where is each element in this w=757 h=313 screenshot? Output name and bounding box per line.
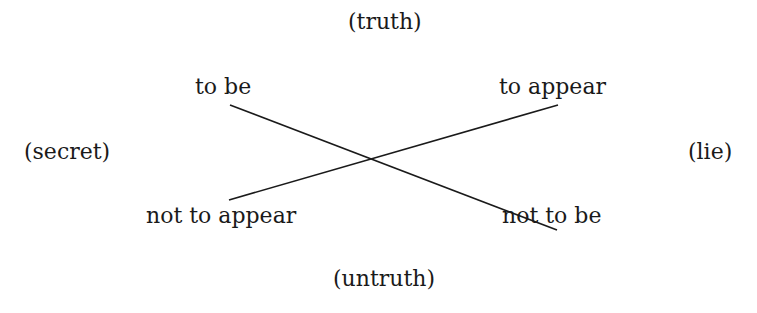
line-to-appear-not-to-appear	[229, 105, 558, 200]
corner-to-be-label: to be	[195, 76, 251, 98]
corner-not-to-be-label: not to be	[502, 205, 601, 227]
corner-to-appear-label: to appear	[499, 76, 606, 98]
pole-right-label: (lie)	[688, 141, 732, 163]
corner-not-to-appear-label: not to appear	[146, 205, 296, 227]
pole-bottom-label: (untruth)	[333, 268, 435, 290]
pole-left-label: (secret)	[24, 141, 110, 163]
pole-top-label: (truth)	[348, 11, 422, 33]
